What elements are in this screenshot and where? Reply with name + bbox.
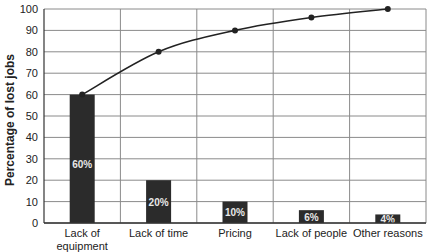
bar-value-label: 10%: [225, 207, 245, 218]
x-category-label: equipment: [57, 240, 108, 252]
bar-value-label: 60%: [72, 159, 92, 170]
x-category-label: Other reasons: [353, 227, 423, 239]
y-tick-label: 80: [26, 46, 38, 58]
y-axis-label: Percentage of lost jobs: [3, 54, 17, 186]
bar-value-label: 6%: [304, 212, 319, 223]
x-category-label: Lack of people: [276, 227, 348, 239]
y-tick-label: 50: [26, 110, 38, 122]
x-category-label: Pricing: [218, 227, 252, 239]
line-marker: [232, 27, 238, 33]
y-tick-label: 10: [26, 196, 38, 208]
x-axis-categories: Lack ofequipmentLack of timePricingLack …: [57, 227, 424, 252]
pareto-chart: 60%20%10%6%4% 0102030405060708090100 Lac…: [0, 0, 432, 252]
y-axis-ticks: 0102030405060708090100: [20, 3, 38, 229]
x-category-label: Lack of time: [129, 227, 188, 239]
y-tick-label: 30: [26, 153, 38, 165]
x-category-label: Lack of: [64, 227, 100, 239]
y-tick-label: 100: [20, 3, 38, 15]
bar-value-label: 20%: [149, 197, 169, 208]
line-marker: [79, 92, 85, 98]
y-tick-label: 20: [26, 174, 38, 186]
y-tick-label: 0: [32, 217, 38, 229]
y-tick-label: 60: [26, 89, 38, 101]
line-marker: [385, 6, 391, 12]
y-tick-label: 90: [26, 24, 38, 36]
y-tick-label: 40: [26, 131, 38, 143]
y-tick-label: 70: [26, 67, 38, 79]
line-marker: [308, 15, 314, 21]
bars: 60%20%10%6%4%: [70, 95, 401, 225]
gridlines: [44, 9, 426, 223]
line-marker: [156, 49, 162, 55]
